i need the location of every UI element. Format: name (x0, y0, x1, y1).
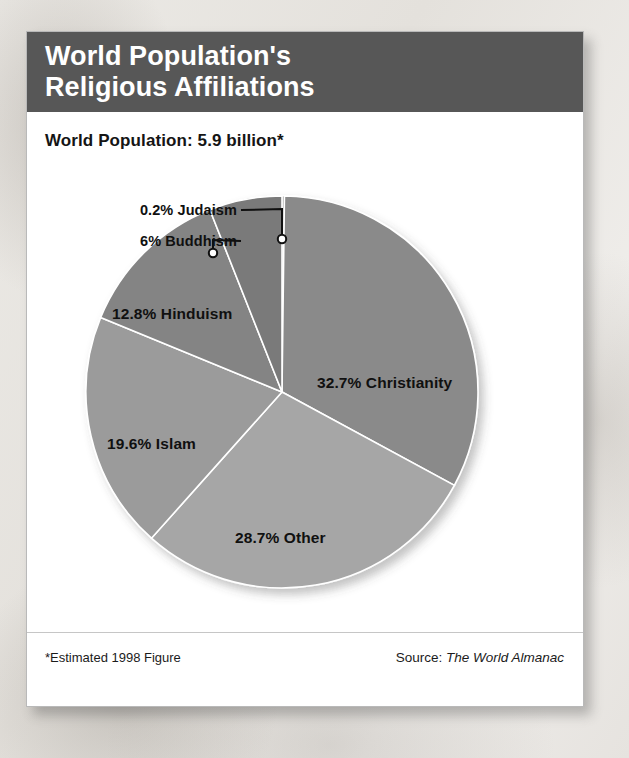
pie-chart: 32.7% Christianity28.7% Other19.6% Islam… (85, 195, 479, 589)
slice-label-other: 28.7% Other (235, 529, 326, 547)
chart-subtitle: World Population: 5.9 billion* (45, 131, 583, 151)
callout-label-judaism: 0.2% Judaism (25, 202, 237, 218)
callout-label-buddhism: 6% Buddhism (25, 233, 237, 249)
chart-area: 32.7% Christianity28.7% Other19.6% Islam… (27, 151, 583, 651)
source-title: The World Almanac (446, 650, 564, 665)
slice-label-hinduism: 12.8% Hinduism (112, 305, 232, 323)
slice-label-islam: 19.6% Islam (107, 435, 196, 453)
footnote-text: *Estimated 1998 Figure (45, 650, 181, 665)
slice-label-christianity: 32.7% Christianity (317, 374, 452, 392)
page-title-line-1: World Population's (45, 41, 583, 72)
callout-marker-buddhism (209, 249, 217, 257)
infographic-card: World Population's Religious Affiliation… (26, 31, 584, 707)
page-title-line-2: Religious Affiliations (45, 72, 583, 103)
card-footer: *Estimated 1998 Figure Source: The World… (27, 632, 583, 706)
source-prefix: Source: (396, 650, 443, 665)
card-header: World Population's Religious Affiliation… (27, 32, 583, 112)
source-credit: Source: The World Almanac (396, 650, 564, 665)
callout-marker-judaism (278, 235, 286, 243)
